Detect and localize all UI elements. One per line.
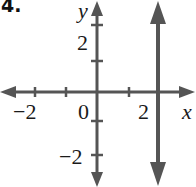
x-tick-label-neg2: −2	[13, 99, 36, 124]
x-tick-label-2: 2	[138, 99, 149, 124]
origin-label: 0	[78, 99, 89, 124]
line-down-arrow-icon	[150, 162, 166, 186]
x-axis-left-arrow-icon	[0, 86, 16, 98]
x-axis-right-arrow-icon	[179, 86, 195, 98]
y-tick-label-neg2: −2	[59, 144, 82, 169]
y-tick-label-2: 2	[77, 30, 88, 55]
graph: y 2 −2 0 2 x −2	[0, 0, 196, 187]
y-axis-down-arrow-icon	[91, 172, 103, 187]
y-axis-up-arrow-icon	[91, 1, 103, 16]
line-up-arrow-icon	[150, 1, 166, 24]
x-axis-label: x	[181, 99, 192, 124]
y-axis-label: y	[76, 0, 88, 23]
